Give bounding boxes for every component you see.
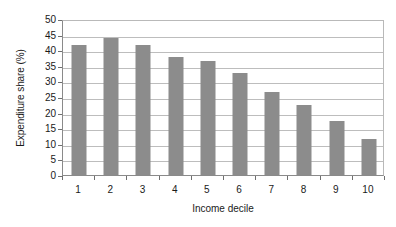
x-axis-tick-label: 7 (255, 184, 287, 196)
x-axis-tick-label: 2 (94, 184, 126, 196)
y-axis-tick-label: 20 (30, 109, 56, 119)
x-axis-tick-label: 6 (223, 184, 255, 196)
bar-slot (321, 21, 353, 175)
x-axis-tick-mark (287, 176, 288, 180)
bar (104, 38, 119, 175)
y-axis-tick-label: 10 (30, 140, 56, 150)
x-axis-tick-label: 5 (191, 184, 223, 196)
y-axis-tick-label: 40 (30, 46, 56, 56)
y-axis-tick-label: 25 (30, 93, 56, 103)
x-axis-tick-mark (384, 176, 385, 180)
x-axis-tick-mark (126, 176, 127, 180)
bar (297, 105, 312, 175)
x-axis-title: Income decile (62, 203, 384, 215)
bar-slot (353, 21, 385, 175)
bar (361, 139, 376, 175)
bar (329, 121, 344, 175)
bar-slot (63, 21, 95, 175)
y-axis-tick-label: 0 (30, 171, 56, 181)
bar (168, 57, 183, 175)
bar (136, 45, 151, 175)
bar-slot (95, 21, 127, 175)
bar-slot (256, 21, 288, 175)
bar-slot (224, 21, 256, 175)
x-axis-tick-label: 10 (352, 184, 384, 196)
x-axis-tick-mark (191, 176, 192, 180)
y-axis-title: Expenditure share (%) (14, 8, 28, 188)
x-axis-tick-label: 4 (159, 184, 191, 196)
bar-slot (127, 21, 159, 175)
x-axis-tick-label: 8 (287, 184, 319, 196)
x-axis-tick-mark (159, 176, 160, 180)
bar-slot (288, 21, 320, 175)
x-axis-tick-mark (94, 176, 95, 180)
x-axis-tick-mark (255, 176, 256, 180)
x-axis-tick-mark (320, 176, 321, 180)
y-axis-tick-label: 15 (30, 124, 56, 134)
bar (72, 45, 87, 175)
bar-slot (192, 21, 224, 175)
y-axis-tick-label: 35 (30, 62, 56, 72)
bar (265, 92, 280, 175)
x-axis-tick-mark (352, 176, 353, 180)
y-axis-tick-label: 30 (30, 77, 56, 87)
x-axis-tick-label: 3 (126, 184, 158, 196)
bar-chart-figure: Expenditure share (%) 051015202530354045… (0, 0, 396, 227)
bar (233, 73, 248, 175)
bar-slot (160, 21, 192, 175)
x-axis-tick-label: 1 (62, 184, 94, 196)
y-axis-tick-label: 5 (30, 155, 56, 165)
bar (200, 61, 215, 175)
x-axis-tick-label: 9 (320, 184, 352, 196)
y-axis-tick-label: 45 (30, 31, 56, 41)
y-axis-tick-label: 50 (30, 15, 56, 25)
x-axis-tick-mark (223, 176, 224, 180)
plot-area (62, 20, 384, 176)
x-axis-tick-mark (62, 176, 63, 180)
